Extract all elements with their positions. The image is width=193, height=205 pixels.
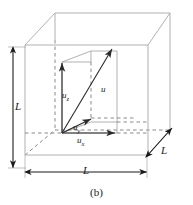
label-depth-L: L [161, 145, 167, 156]
label-vector-uy: uy [73, 123, 80, 134]
cube-vector-diagram [0, 0, 193, 205]
label-vector-u: u [101, 85, 106, 94]
outer-cube [25, 13, 170, 155]
dimension-arrow-depth [146, 128, 172, 157]
label-width-L: L [83, 165, 89, 176]
outer-cube-back-edges [55, 13, 170, 130]
label-vector-ux: ux [77, 136, 84, 147]
dimension-arrows [8, 47, 172, 178]
label-vector-uz: uz [62, 91, 69, 102]
outer-cube-front-face [25, 45, 148, 155]
figure-container: L L L u uz uy ux (b) [0, 0, 193, 205]
outer-cube-top-face [25, 13, 170, 45]
figure-caption: (b) [0, 186, 193, 198]
label-height-L: L [15, 101, 21, 112]
